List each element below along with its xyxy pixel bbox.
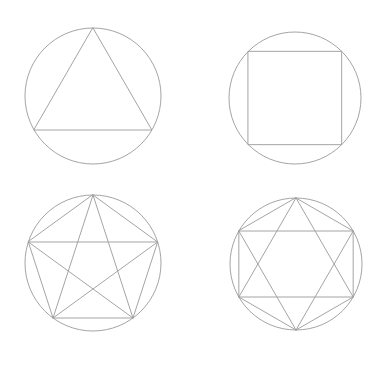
figure-hexagram-chord xyxy=(239,198,296,297)
figure-hexagram-circle xyxy=(230,198,362,330)
figure-pentagram-chord xyxy=(53,242,158,318)
figure-triangle-circle xyxy=(25,28,161,164)
figure-square-circle xyxy=(229,32,361,164)
figure-pentagram-chord xyxy=(93,195,133,318)
figure-pentagram-chord xyxy=(28,242,133,318)
figure-square-polygon xyxy=(248,51,341,144)
figure-square-group xyxy=(229,32,361,164)
figure-canvas xyxy=(0,0,388,369)
figure-pentagram-circle xyxy=(25,195,161,331)
figure-hexagram-group xyxy=(230,198,362,330)
figure-hexagram-chord xyxy=(296,198,353,297)
figure-pentagram-chord xyxy=(53,195,93,318)
figure-hexagram-chord xyxy=(239,231,296,330)
figure-pentagram-group xyxy=(25,195,161,331)
figure-triangle-polygon xyxy=(34,28,152,130)
figure-triangle-group xyxy=(25,28,161,164)
figure-hexagram-star xyxy=(239,198,353,330)
figure-pentagram-star xyxy=(28,195,157,318)
figure-hexagram-polygon xyxy=(239,198,353,330)
figure-hexagram-chord xyxy=(296,231,353,330)
figure-sheet xyxy=(0,0,388,369)
